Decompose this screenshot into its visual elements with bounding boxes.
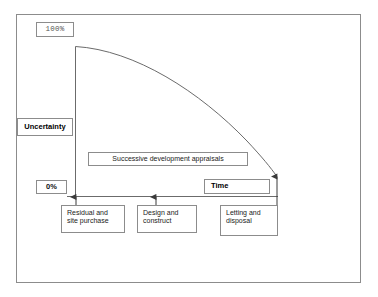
stage-box-design-and-construct: Design andconstruct [137,205,197,233]
x-axis-title: Time [204,179,270,194]
appraisals-band-label: Successive development appraisals [88,152,248,166]
y-axis-title-text: Uncertainty [18,123,72,132]
y-axis-min-label-text: 0% [37,183,66,192]
x-axis-title-text: Time [211,182,269,191]
appraisals-band-text: Successive development appraisals [89,155,247,163]
stage-box-label: Design andconstruct [143,209,191,226]
y-axis-title: Uncertainty [17,118,73,136]
y-axis-max-label: 100% [36,22,74,37]
y-axis-max-label-text: 100% [37,25,73,34]
stage-box-residual-and-site-purchase: Residual andsite purchase [61,205,125,233]
stage-box-letting-and-disposal: Letting anddisposal [220,205,278,236]
stage-box-label: Letting anddisposal [226,209,272,226]
stage-box-label: Residual andsite purchase [67,209,119,226]
y-axis-min-label: 0% [36,180,67,194]
figure-frame [16,14,361,283]
diagram-root: 100% Uncertainty Successive development … [0,0,378,297]
